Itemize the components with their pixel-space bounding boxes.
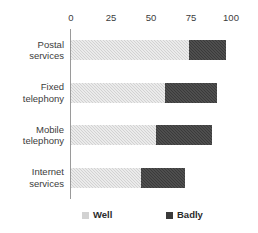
bar-segment-badly <box>189 40 226 60</box>
category-label-line: telephony <box>0 135 64 147</box>
bar-segment-well <box>71 83 165 103</box>
x-axis-tick-labels: 0 25 50 75 100 <box>0 11 258 25</box>
bar-segment-well <box>71 125 156 145</box>
category-label-fixed-telephony: Fixed telephony <box>0 81 64 104</box>
x-tick-label: 100 <box>223 11 239 24</box>
legend-label: Well <box>93 209 112 221</box>
bar-segment-well <box>71 40 189 60</box>
legend-label: Badly <box>177 209 203 221</box>
category-label-line: Mobile <box>0 124 64 136</box>
stacked-bar-chart: 0 25 50 75 100 Postal services Fixed tel… <box>0 0 258 233</box>
plot-area <box>71 29 231 199</box>
category-label-line: telephony <box>0 93 64 105</box>
category-label-line: Internet <box>0 166 64 178</box>
category-label-line: Fixed <box>0 81 64 93</box>
category-label-internet-services: Internet services <box>0 166 64 189</box>
category-label-line: services <box>0 50 64 62</box>
legend-item-well: Well <box>82 209 112 221</box>
x-tick-label: 50 <box>146 11 157 24</box>
category-label-postal-services: Postal services <box>0 39 64 62</box>
chart-legend: Well Badly <box>0 209 258 225</box>
legend-swatch-badly-icon <box>166 212 173 219</box>
bar-segment-badly <box>141 168 184 188</box>
bar-segment-well <box>71 168 141 188</box>
bar-segment-badly <box>165 83 216 103</box>
category-label-line: services <box>0 178 64 190</box>
bar-segment-badly <box>156 125 212 145</box>
legend-swatch-well-icon <box>82 212 89 219</box>
legend-item-badly: Badly <box>166 209 203 221</box>
category-axis-labels: Postal services Fixed telephony Mobile t… <box>0 29 68 199</box>
category-label-mobile-telephony: Mobile telephony <box>0 124 64 147</box>
x-tick-label: 75 <box>186 11 197 24</box>
category-label-line: Postal <box>0 39 64 51</box>
x-tick-label: 25 <box>106 11 117 24</box>
x-tick-label: 0 <box>68 11 73 24</box>
